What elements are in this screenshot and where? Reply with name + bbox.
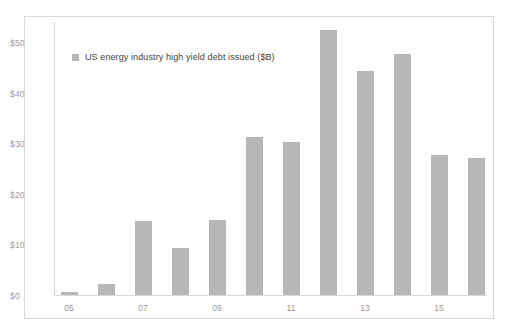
x-tick-label: 11 bbox=[276, 303, 306, 313]
x-tick-label: 13 bbox=[350, 303, 380, 313]
x-tick-label: 07 bbox=[128, 303, 158, 313]
legend-label: US energy industry high yield debt issue… bbox=[85, 52, 275, 62]
legend: US energy industry high yield debt issue… bbox=[72, 52, 275, 62]
x-tick-label: 09 bbox=[202, 303, 232, 313]
x-tick-label: 15 bbox=[424, 303, 454, 313]
legend-swatch-icon bbox=[72, 54, 79, 61]
x-axis: 05 07 09 11 13 15 bbox=[0, 0, 517, 335]
x-tick-label: 05 bbox=[54, 303, 84, 313]
